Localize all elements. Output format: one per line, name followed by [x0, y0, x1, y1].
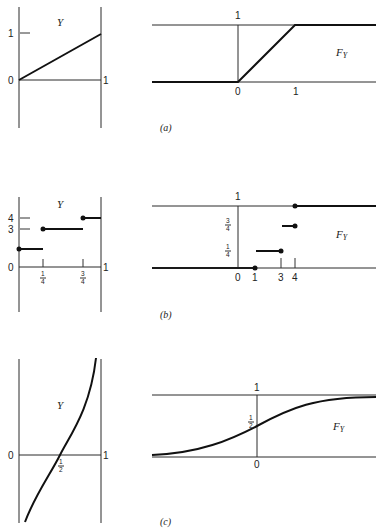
caption-a: (a)	[160, 122, 172, 134]
y-tick-label-quarter: 1 4	[225, 243, 231, 258]
step-dot-2	[41, 227, 46, 232]
svg-text:4: 4	[226, 251, 230, 258]
origin-label: 0	[8, 450, 14, 461]
x-tick-label-1: 1	[293, 86, 299, 97]
svg-text:2: 2	[249, 422, 253, 429]
cdf-dot-4	[293, 224, 298, 229]
x-tick-label-3: 3	[278, 272, 284, 283]
svg-text:4: 4	[81, 278, 85, 285]
x-right-label: 1	[103, 75, 109, 86]
x-right-label: 1	[103, 450, 109, 461]
y-curve	[25, 358, 96, 522]
x-tick-label-1: 1	[252, 272, 258, 283]
svg-text:1: 1	[41, 270, 45, 277]
y-tick-label-threequarter: 3 4	[225, 217, 231, 232]
top-label-1: 1	[254, 382, 260, 393]
x-tick-label-0: 0	[235, 272, 241, 283]
func-label: FY	[335, 228, 349, 242]
var-label-y: Y	[57, 16, 65, 28]
y-tick-label-1: 1	[8, 28, 14, 39]
svg-text:1: 1	[249, 414, 253, 421]
panel-a-right-plot: 1 0 1 FY	[152, 10, 376, 97]
y-tick-label-3: 3	[8, 224, 14, 235]
panel-c-left-plot: Y 0 1 1 2	[8, 358, 109, 523]
y-tick-label-4: 4	[8, 213, 14, 224]
step-dot-3	[81, 216, 86, 221]
caption-b: (b)	[160, 309, 172, 321]
svg-text:1: 1	[59, 458, 63, 465]
caption-c: (c)	[160, 516, 172, 528]
x-tick-label-0: 0	[254, 459, 260, 470]
origin-label: 0	[8, 262, 14, 273]
panel-c-right-plot: 1 1 2 0 FY	[152, 382, 376, 470]
figure-canvas: Y 1 0 1 1 0 1 FY (a) Y 4 3 0 1 1	[0, 0, 384, 532]
svg-text:3: 3	[81, 270, 85, 277]
x-right-label: 1	[103, 262, 109, 273]
origin-label: 0	[8, 75, 14, 86]
panel-b-left-plot: Y 4 3 0 1 1 4 3 4	[8, 197, 109, 312]
svg-text:1: 1	[226, 243, 230, 250]
top-label-1: 1	[235, 191, 241, 202]
x-tick-label-4: 4	[292, 272, 298, 283]
svg-text:2: 2	[59, 466, 63, 473]
svg-text:4: 4	[41, 278, 45, 285]
y-tick-label-half: 1 2	[248, 414, 254, 429]
cdf-dot-3	[279, 249, 284, 254]
y-line	[19, 34, 101, 80]
x-tick-label-quarter: 1 4	[40, 270, 46, 285]
func-label: FY	[332, 420, 346, 434]
var-label-y: Y	[57, 399, 65, 411]
x-tick-label-half: 1 2	[58, 458, 64, 473]
x-tick-label-0: 0	[235, 86, 241, 97]
svg-text:4: 4	[226, 225, 230, 232]
panel-b-right-plot: 1 3 4 1 4 0 1 3 4 FY	[152, 191, 376, 283]
top-label-1: 1	[235, 10, 241, 21]
panel-a-left-plot: Y 1 0 1	[8, 7, 109, 128]
step-dot-1	[17, 247, 22, 252]
var-label-y: Y	[57, 198, 65, 210]
svg-text:3: 3	[226, 217, 230, 224]
cdf-dot-top	[293, 204, 298, 209]
func-label: FY	[335, 46, 349, 60]
x-tick-label-threequarter: 3 4	[80, 270, 86, 285]
cdf-dot-1	[253, 266, 258, 271]
